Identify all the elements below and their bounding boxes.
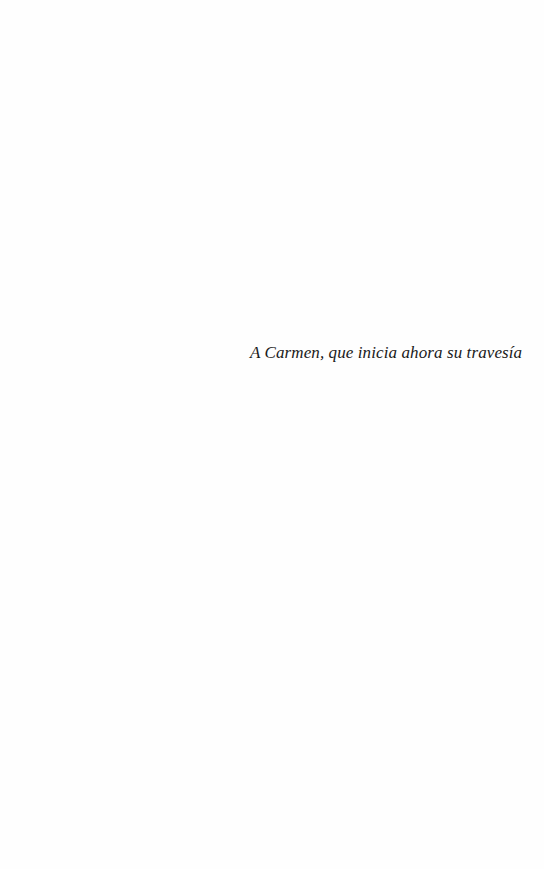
book-page: A Carmen, que inicia ahora su travesía — [0, 0, 544, 869]
dedication-text: A Carmen, que inicia ahora su travesía — [250, 343, 522, 363]
